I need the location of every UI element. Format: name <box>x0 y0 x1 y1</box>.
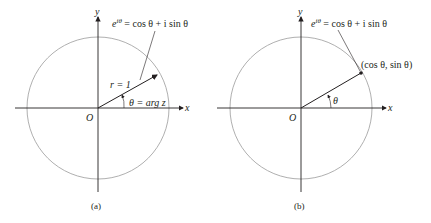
angle-arc <box>122 95 124 108</box>
origin-label: O <box>289 112 296 123</box>
radius-line <box>301 73 361 108</box>
radius-label: r = 1 <box>110 79 131 90</box>
angle-label: θ = arg z <box>129 97 166 108</box>
angle-arc <box>328 95 331 108</box>
panel-b: x y O eiθ = cos θ + i sin θ (cos θ, sin … <box>217 6 412 211</box>
leader-line <box>140 31 155 80</box>
formula-label: eiθ = cos θ + i sin θ <box>311 17 387 29</box>
point-marker <box>359 71 363 75</box>
y-axis-label: y <box>297 6 303 17</box>
caption-a: (a) <box>91 201 101 211</box>
x-axis-label: x <box>184 102 190 113</box>
y-axis-label: y <box>94 6 100 17</box>
unit-circle-figure: x y O eiθ = cos θ + i sin θ r = 1 θ = ar… <box>0 0 431 223</box>
origin-label: O <box>86 112 93 123</box>
leader-line <box>338 30 360 71</box>
x-axis-label: x <box>387 102 393 113</box>
panel-a: x y O eiθ = cos θ + i sin θ r = 1 θ = ar… <box>15 6 190 211</box>
point-label: (cos θ, sin θ) <box>361 59 412 71</box>
caption-b: (b) <box>294 201 305 211</box>
formula-label: eiθ = cos θ + i sin θ <box>112 17 188 29</box>
angle-label: θ <box>333 95 338 106</box>
